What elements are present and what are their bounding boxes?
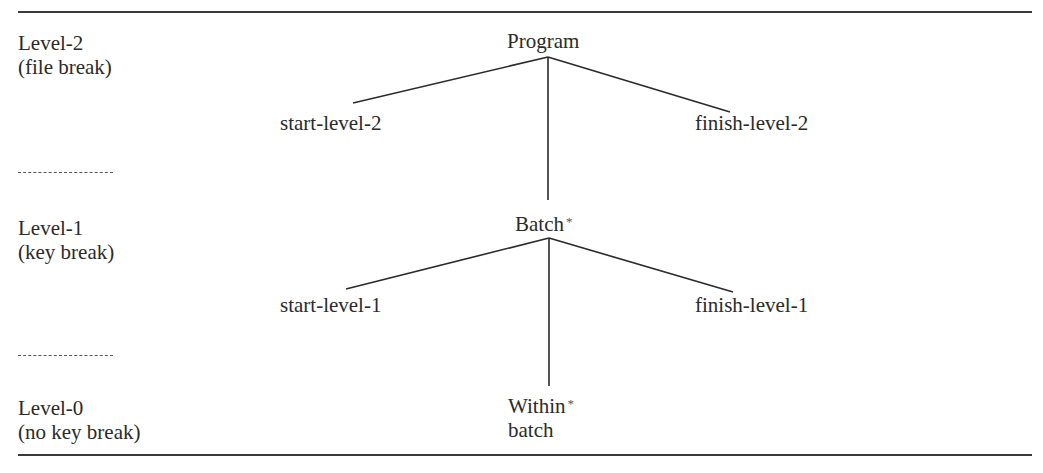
node-program: Program xyxy=(507,29,579,53)
bottom-rule xyxy=(18,454,1032,456)
node-finish-level-1: finish-level-1 xyxy=(695,293,808,317)
node-within-batch: Within* batch xyxy=(508,394,574,442)
node-start-level-2: start-level-2 xyxy=(280,111,381,135)
edge-program-finish-level-2 xyxy=(548,57,730,112)
asterisk-marker: * xyxy=(566,214,573,229)
asterisk-marker: * xyxy=(567,396,574,411)
edge-program-start-level-2 xyxy=(353,57,548,103)
edge-batch-finish-level-1 xyxy=(549,238,733,292)
edge-batch-start-level-1 xyxy=(346,238,549,289)
node-start-level-1: start-level-1 xyxy=(280,293,381,317)
node-batch: Batch* xyxy=(515,212,572,236)
node-finish-level-2: finish-level-2 xyxy=(695,111,808,135)
